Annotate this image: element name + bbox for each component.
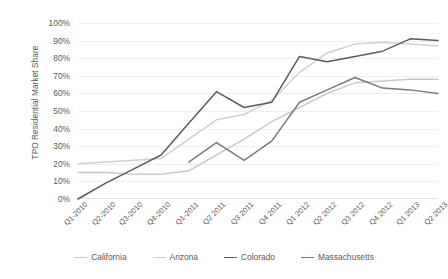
x-axis-tick-label: Q2 2011 bbox=[201, 200, 228, 227]
x-axis-tick-label: Q4-2010 bbox=[145, 200, 172, 227]
x-axis-tick-label: Q1 2013 bbox=[395, 200, 422, 227]
chart-legend: CaliforniaArizonaColoradoMassachusetts bbox=[0, 252, 448, 262]
line-chart: TPO Residential Market Share 100%90%80%7… bbox=[0, 0, 448, 279]
legend-line-icon bbox=[301, 257, 314, 258]
x-axis-tick-label: Q3-2010 bbox=[117, 200, 144, 227]
y-axis-tick-label: 70% bbox=[26, 71, 70, 81]
x-axis-tick-label: Q1-2011 bbox=[173, 200, 200, 227]
x-axis-tick-label: Q1 2012 bbox=[284, 200, 311, 227]
series-line bbox=[78, 42, 438, 163]
y-axis-tick-labels: 100%90%80%70%60%50%40%30%20%10%0% bbox=[26, 18, 70, 204]
y-axis-tick-label: 40% bbox=[26, 124, 70, 134]
x-axis-tick-label: Q2-2010 bbox=[90, 200, 117, 227]
legend-label: Massachusetts bbox=[318, 252, 374, 262]
y-axis-tick-label: 20% bbox=[26, 159, 70, 169]
x-axis-tick-label: Q2 2013 bbox=[422, 200, 448, 227]
x-axis-tick-label: Q2 2012 bbox=[312, 200, 339, 227]
series-lines bbox=[78, 23, 438, 199]
y-axis-tick-label: 90% bbox=[26, 36, 70, 46]
x-axis-tick-label: Q4 2012 bbox=[367, 200, 394, 227]
legend-item[interactable]: Colorado bbox=[224, 252, 275, 262]
series-line bbox=[189, 78, 438, 162]
legend-item[interactable]: Massachusetts bbox=[301, 252, 374, 262]
legend-line-icon bbox=[153, 257, 166, 258]
x-axis-tick-labels: Q1-2010Q2-2010Q3-2010Q4-2010Q1-2011Q2 20… bbox=[78, 200, 438, 246]
legend-line-icon bbox=[224, 257, 237, 258]
y-axis-tick-label: 0% bbox=[26, 194, 70, 204]
legend-label: Arizona bbox=[170, 252, 198, 262]
y-axis-tick-label: 100% bbox=[26, 18, 70, 28]
y-axis-tick-label: 50% bbox=[26, 106, 70, 116]
legend-item[interactable]: California bbox=[74, 252, 126, 262]
x-axis-tick-label: Q3 2012 bbox=[339, 200, 366, 227]
y-axis-tick-label: 80% bbox=[26, 53, 70, 63]
legend-line-icon bbox=[74, 257, 87, 258]
legend-label: Colorado bbox=[241, 252, 275, 262]
legend-item[interactable]: Arizona bbox=[153, 252, 198, 262]
x-axis-tick-label: Q4 2011 bbox=[257, 200, 284, 227]
x-axis-tick-label: Q3 2011 bbox=[229, 200, 256, 227]
y-axis-tick-label: 30% bbox=[26, 141, 70, 151]
legend-label: California bbox=[91, 252, 126, 262]
y-axis-tick-label: 60% bbox=[26, 88, 70, 98]
y-axis-tick-label: 10% bbox=[26, 176, 70, 186]
plot-area bbox=[78, 23, 438, 199]
x-axis-tick-label: Q1-2010 bbox=[62, 200, 89, 227]
